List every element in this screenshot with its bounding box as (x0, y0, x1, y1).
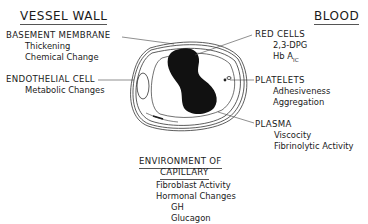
label-platelets: PLATELETS (255, 76, 305, 85)
label-gh: GH (171, 203, 184, 211)
label-chemical-change: Chemical Change (25, 53, 99, 61)
label-basement-membrane: BASEMENT MEMBRANE (6, 31, 111, 40)
hba-text: Hb A (273, 51, 293, 61)
heading-blood: BLOOD (314, 10, 359, 25)
label-thickening: Thickening (25, 42, 70, 50)
label-hormonal-changes: Hormonal Changes (156, 192, 236, 200)
label-aggregation: Aggregation (273, 98, 324, 106)
label-glucagon: Glucagon (171, 214, 211, 222)
heading-vessel-wall: VESSEL WALL (20, 10, 107, 25)
label-fibroblast-activity: Fibroblast Activity (156, 181, 231, 189)
label-adhesiveness: Adhesiveness (273, 87, 330, 95)
hba-subscript: IC (293, 57, 298, 63)
label-hba1c: Hb AIC (273, 52, 298, 63)
label-viscocity: Viscocity (274, 131, 311, 139)
platelet-marks (224, 77, 231, 82)
red-cell (168, 48, 217, 114)
endothelial-nucleus (137, 73, 149, 99)
label-2-3-dpg: 2,3-DPG (273, 41, 307, 49)
label-plasma: PLASMA (255, 120, 292, 129)
label-metabolic-changes: Metabolic Changes (25, 86, 105, 94)
label-red-cells: RED CELLS (255, 30, 305, 39)
label-fibrinolytic-activity: Fibrinolytic Activity (274, 142, 354, 150)
label-capillary: CAPILLARY (160, 168, 209, 180)
label-endothelial-cell: ENDOTHELIAL CELL (6, 75, 95, 84)
